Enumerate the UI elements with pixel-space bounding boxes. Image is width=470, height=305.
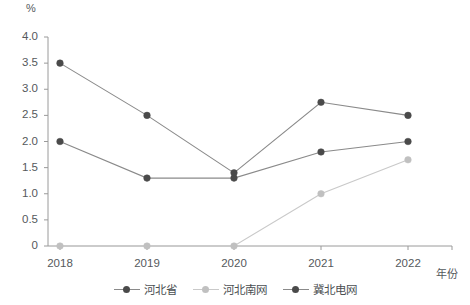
series-2-point — [231, 243, 238, 250]
y-axis-tick-label: 0 — [4, 240, 38, 252]
series-3-point — [318, 99, 325, 106]
chart-legend: 河北省河北南网冀北电网 — [0, 281, 470, 297]
y-axis-tick-label: 0.5 — [4, 214, 38, 226]
x-axis-tick-label: 2022 — [378, 258, 438, 270]
series-3-point — [231, 170, 238, 177]
legend-label: 冀北电网 — [313, 281, 357, 297]
legend-marker-icon — [283, 284, 309, 294]
legend-label: 河北省 — [144, 281, 177, 297]
legend-item-2[interactable]: 河北南网 — [193, 281, 267, 297]
y-axis-tick-label: 2.5 — [4, 109, 38, 121]
x-axis-tick-label: 2020 — [204, 258, 264, 270]
legend-marker-icon — [193, 284, 219, 294]
series-1-point — [318, 149, 325, 156]
series-1-point — [57, 138, 64, 145]
series-3-point — [144, 112, 151, 119]
x-axis-tick-label: 2018 — [30, 258, 90, 270]
y-axis-tick-label: 2.0 — [4, 136, 38, 148]
y-axis-tick-label: 3.0 — [4, 83, 38, 95]
legend-marker-icon — [114, 284, 140, 294]
y-axis-tick-label: 1.0 — [4, 188, 38, 200]
series-2-point — [405, 156, 412, 163]
y-axis-tick-label: 1.5 — [4, 162, 38, 174]
series-2-point — [57, 243, 64, 250]
series-1-point — [405, 138, 412, 145]
line-chart: % 年份 河北省河北南网冀北电网 00.51.01.52.02.53.03.54… — [0, 0, 470, 305]
series-3-point — [57, 60, 64, 67]
series-line-3 — [60, 63, 408, 173]
series-1-point — [144, 175, 151, 182]
series-2-point — [144, 243, 151, 250]
series-3-point — [405, 112, 412, 119]
legend-item-1[interactable]: 河北省 — [114, 281, 177, 297]
y-axis-tick-label: 3.5 — [4, 57, 38, 69]
x-axis-tick-label: 2019 — [117, 258, 177, 270]
x-axis-tick-label: 2021 — [291, 258, 351, 270]
y-axis-tick-label: 4.0 — [4, 31, 38, 43]
legend-label: 河北南网 — [223, 281, 267, 297]
x-axis-title: 年份 — [436, 265, 458, 281]
legend-item-3[interactable]: 冀北电网 — [283, 281, 357, 297]
series-2-point — [318, 190, 325, 197]
